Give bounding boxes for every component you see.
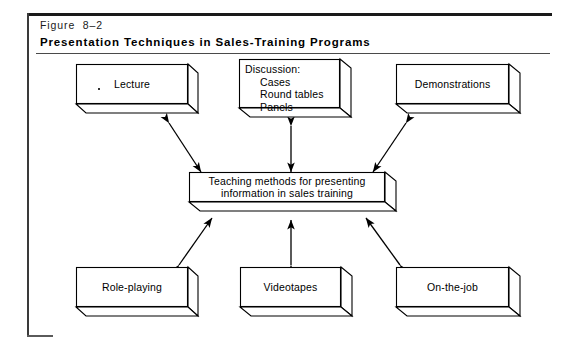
- node-on-the-job[interactable]: On-the-job: [396, 267, 520, 325]
- figure-number: Figure 8–2: [40, 18, 520, 32]
- figure-caption: Figure 8–2 Presentation Techniques in Sa…: [40, 18, 520, 50]
- frame-bottom-stub: [27, 335, 53, 337]
- connector-roleplaying-center: [179, 218, 212, 265]
- title-underline-rule: [36, 53, 550, 54]
- stray-dot-mark: [98, 88, 100, 90]
- connector-lecture-center: [169, 123, 201, 172]
- connector-demonstrations-center: [373, 123, 406, 172]
- connector-onthejob-center: [366, 218, 400, 265]
- figure-title: Presentation Techniques in Sales-Trainin…: [40, 34, 520, 50]
- node-center-teaching-methods[interactable]: Teaching methods for presenting informat…: [189, 172, 396, 220]
- node-role-playing[interactable]: Role-playing: [76, 267, 198, 325]
- node-demonstrations[interactable]: Demonstrations: [396, 64, 520, 122]
- node-lecture[interactable]: Lecture: [76, 64, 198, 122]
- frame-left-rule: [27, 13, 29, 337]
- figure-container: Figure 8–2 Presentation Techniques in Sa…: [0, 0, 574, 357]
- frame-top-rule: [27, 13, 552, 16]
- node-discussion[interactable]: Discussion: Cases Round tables Panels: [239, 59, 351, 126]
- node-videotapes[interactable]: Videotapes: [240, 267, 352, 325]
